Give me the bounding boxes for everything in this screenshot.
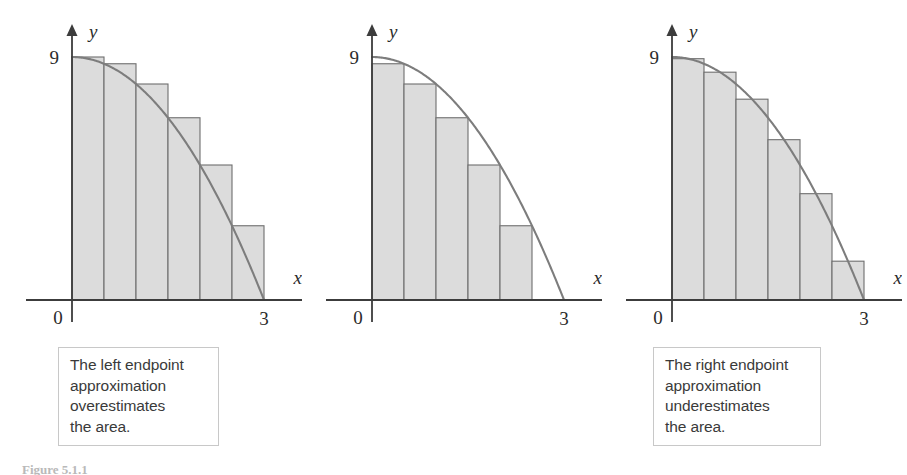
riemann-rectangle — [404, 84, 436, 300]
origin-label: 0 — [53, 307, 63, 328]
y-tick-label-9: 9 — [50, 47, 60, 68]
riemann-plot-svg: yx903 — [0, 0, 302, 340]
caption-left-endpoint: The left endpoint approximation overesti… — [58, 347, 219, 446]
plot-right-endpoint: yx903 — [300, 0, 602, 340]
origin-label: 0 — [653, 307, 663, 328]
riemann-rectangle — [104, 64, 136, 300]
riemann-rectangle — [136, 84, 168, 300]
riemann-rectangle — [436, 118, 468, 300]
panel-right-endpoint: yx903 The right endpoint approximation u… — [300, 0, 602, 475]
riemann-rectangle — [768, 140, 800, 300]
riemann-rectangle — [672, 59, 704, 300]
riemann-rectangle — [72, 57, 104, 300]
x-axis-label: x — [893, 267, 902, 288]
riemann-rectangle — [372, 64, 404, 300]
y-tick-label-9: 9 — [650, 47, 660, 68]
riemann-rectangles — [72, 57, 264, 300]
y-axis-label: y — [87, 21, 98, 42]
riemann-rectangle — [168, 118, 200, 300]
riemann-rectangles — [672, 59, 864, 300]
riemann-rectangle — [736, 99, 768, 300]
riemann-rectangle — [468, 165, 500, 300]
plot-left-endpoint: yx903 — [0, 0, 302, 340]
y-axis-arrowhead — [367, 24, 378, 36]
y-axis-arrowhead — [67, 24, 78, 36]
y-axis-arrowhead — [667, 24, 678, 36]
riemann-plot-svg: yx903 — [300, 0, 602, 340]
x-tick-label-3: 3 — [859, 308, 869, 329]
riemann-plot-svg: yx903 — [600, 0, 902, 340]
x-tick-label-3: 3 — [559, 308, 569, 329]
riemann-rectangle — [832, 261, 864, 300]
panel-midpoint: yx903 The midpoint approximation is bett… — [600, 0, 902, 475]
origin-label: 0 — [353, 307, 363, 328]
plot-midpoint: yx903 — [600, 0, 902, 340]
riemann-rectangle — [200, 165, 232, 300]
y-tick-label-9: 9 — [350, 47, 360, 68]
y-axis-label: y — [687, 21, 698, 42]
riemann-rectangle — [800, 194, 832, 300]
riemann-rectangle — [500, 226, 532, 300]
figure-number-label: Figure 5.1.1 — [22, 462, 88, 475]
x-tick-label-3: 3 — [259, 308, 269, 329]
y-axis-label: y — [387, 21, 398, 42]
riemann-sum-figure: yx903 The left endpoint approximation ov… — [0, 0, 907, 475]
riemann-rectangle — [704, 72, 736, 300]
panel-left-endpoint: yx903 The left endpoint approximation ov… — [0, 0, 302, 475]
